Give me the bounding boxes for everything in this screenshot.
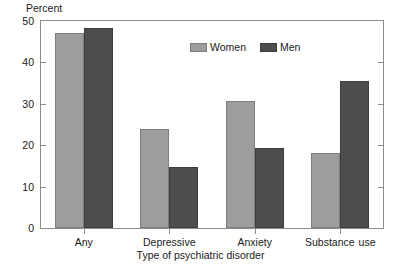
legend-entry-women: Women (190, 42, 246, 53)
bar-men-depressive (169, 167, 198, 228)
bar-women-anxiety (226, 101, 255, 228)
bar-chart: Percent 50403020100 AnyDepressiveAnxiety… (0, 0, 401, 267)
legend-swatch-women-icon (190, 43, 207, 52)
y-tick-label: 20 (4, 140, 34, 150)
x-tick-mark (255, 229, 256, 234)
bar-women-substance-use (311, 153, 340, 228)
y-tick-label: 10 (4, 182, 34, 192)
x-tick-label-text: Depressive (143, 236, 196, 248)
x-tick-label-text-extra: use (359, 236, 376, 248)
y-tick-label: 50 (4, 16, 34, 26)
x-tick-mark (169, 229, 170, 234)
legend-label-women: Women (210, 42, 246, 53)
x-tick-label-text: Any (75, 236, 93, 248)
bar-men-any (84, 28, 113, 228)
y-tick-label: 40 (4, 57, 34, 67)
x-tick-label: Anxiety (238, 236, 272, 248)
x-tick-label: Any (75, 236, 93, 248)
x-tick-label: Substanceuse (305, 236, 376, 248)
legend-swatch-men-icon (260, 43, 277, 52)
y-tick-label: 0 (4, 223, 34, 233)
legend-label-men: Men (280, 42, 300, 53)
x-axis-title: Type of psychiatric disorder (0, 249, 401, 261)
x-tick-label-text: Substance (305, 236, 355, 248)
y-tick-label: 30 (4, 99, 34, 109)
x-tick-mark (84, 229, 85, 234)
chart-legend: Women Men (190, 42, 300, 53)
bar-men-substance-use (340, 81, 369, 228)
bar-women-depressive (140, 129, 169, 228)
x-tick-label-text: Anxiety (238, 236, 272, 248)
bar-women-any (55, 33, 84, 228)
x-tick-label: Depressive (143, 236, 196, 248)
legend-entry-men: Men (260, 42, 300, 53)
y-axis-title: Percent (26, 2, 62, 14)
x-tick-mark (340, 229, 341, 234)
bar-men-anxiety (255, 148, 284, 228)
